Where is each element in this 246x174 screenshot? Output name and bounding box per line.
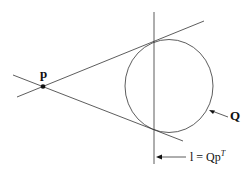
l-arrow-head-icon [156, 155, 162, 160]
polar-line-label-text: l = Qp [190, 150, 221, 164]
conic-q-label: Q [230, 108, 240, 124]
polar-line-label-sup: T [221, 149, 225, 158]
point-p-dot [41, 84, 46, 89]
point-p-label: p [40, 66, 47, 82]
polar-line-diagram: p Q l = QpT [0, 0, 246, 174]
conic-circle [125, 40, 213, 133]
diagram-graphics [0, 0, 246, 174]
q-arrow-head-icon [209, 110, 215, 114]
q-arrow-shaft [212, 111, 228, 117]
polar-line-label: l = QpT [190, 149, 225, 165]
